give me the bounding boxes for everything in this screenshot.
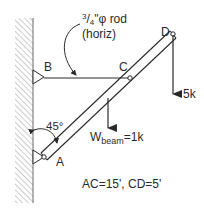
angle-label: 45° (46, 120, 63, 132)
label-d: D (161, 25, 170, 39)
wall (15, 18, 33, 203)
diagram-canvas: 3/4"φ rod (horiz) B C D A 45° 5k Wbeam=1… (0, 0, 204, 213)
rod-label-line2: (horiz) (82, 27, 116, 41)
pin-a (42, 155, 46, 159)
label-a: A (56, 155, 64, 169)
pin-c (128, 76, 132, 80)
pin-support-b (33, 70, 44, 84)
rod-label-leader (64, 24, 80, 75)
dimensions-label: AC=15', CD=5' (82, 177, 161, 191)
weight-label: Wbeam=1k (90, 130, 145, 146)
rod-label: 3/4"φ rod (82, 12, 127, 27)
label-b: B (44, 60, 52, 74)
load-label: 5k (183, 87, 197, 101)
label-c: C (119, 60, 128, 74)
